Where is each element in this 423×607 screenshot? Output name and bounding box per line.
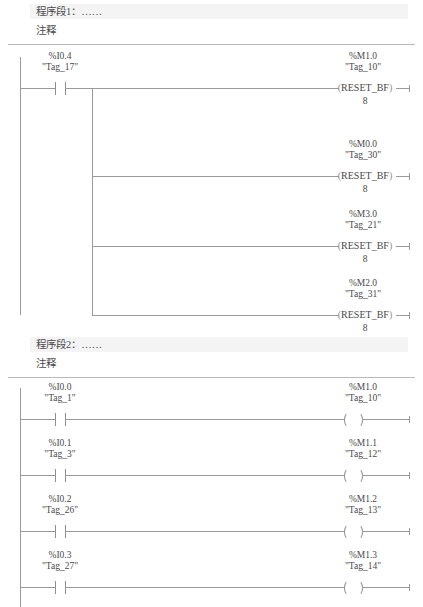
rung-1-wire-coil-out [396, 88, 410, 89]
network-1-title[interactable]: 程序段1：…… [36, 4, 102, 19]
rung-4-end-tick [409, 584, 410, 591]
rung-3-coil-address: %M1.2 [330, 494, 396, 505]
network-2: 程序段2：…… 注释 %I0.0 "Tag_1" %M1.0 "Tag_10" … [0, 334, 423, 607]
rung-1-coil-address: %M1.0 [330, 382, 396, 393]
network-1-divider [8, 44, 415, 45]
network-1-comment[interactable]: 注释 [36, 24, 56, 38]
rung-1-reset-bf-parameter[interactable]: 8 [334, 96, 396, 107]
rung-2-wire-coil-out [396, 176, 410, 177]
rung-3-coil-tag: "Tag_13" [330, 505, 396, 516]
rung-4-wire-coil-out [396, 315, 410, 316]
network-1: 程序段1：…… 注释 %I0.4 "Tag_17" %M1.0 "Tag_10"… [0, 0, 423, 330]
rung-1-wire-right [65, 419, 344, 420]
rung-4-wire-coil-out [363, 587, 410, 588]
rung-1-wire-coil-out [363, 419, 410, 420]
branch-bus [92, 88, 93, 315]
rung-2-wire-left [20, 475, 55, 476]
rung-3-coil-address: %M3.0 [330, 209, 396, 220]
rung-1-contact-tag: "Tag_1" [27, 393, 93, 404]
rung-3-wire-right [65, 531, 344, 532]
rung-1-end-tick [409, 85, 410, 92]
rung-1-contact-address: %I0.0 [27, 382, 93, 393]
rung-4-coil-tag: "Tag_14" [330, 561, 396, 572]
rung-2-reset-bf-coil[interactable]: (RESET_BF) [334, 169, 396, 183]
rung-4-reset-bf-label: RESET_BF [341, 309, 389, 320]
rung-2-contact-address: %I0.1 [27, 438, 93, 449]
rung-1-reset-bf-coil[interactable]: (RESET_BF) [334, 81, 396, 95]
rung-1-wire-right [92, 88, 339, 89]
rung-2-output-coil[interactable] [344, 468, 363, 482]
rung-3-output-coil[interactable] [344, 524, 363, 538]
rung-1-wire-left [20, 88, 55, 89]
rung-2-wire-coil-out [363, 475, 410, 476]
rung-1-wire-mid [65, 88, 92, 89]
rung-3-wire-coil-out [363, 531, 410, 532]
rung-2-coil-tag: "Tag_12" [330, 449, 396, 460]
lad-editor-canvas: 程序段1：…… 注释 %I0.4 "Tag_17" %M1.0 "Tag_10"… [0, 0, 423, 607]
power-rail-left [20, 57, 21, 315]
rung-1-output-coil[interactable] [344, 412, 363, 426]
rung-1-contact-tag: "Tag_17" [27, 62, 93, 73]
rung-1-contact-address: %I0.4 [27, 51, 93, 62]
rung-4-reset-bf-coil[interactable]: (RESET_BF) [334, 308, 396, 322]
power-rail-left [20, 388, 21, 607]
rung-4-output-coil[interactable] [344, 580, 363, 594]
rung-4-reset-bf-parameter[interactable]: 8 [334, 323, 396, 334]
rung-2-reset-bf-parameter[interactable]: 8 [334, 184, 396, 195]
rung-1-wire-left [20, 419, 55, 420]
rung-2-coil-address: %M1.1 [330, 438, 396, 449]
rung-3-contact-tag: "Tag_26" [27, 505, 93, 516]
rung-3-contact-address: %I0.2 [27, 494, 93, 505]
rung-4-end-tick [409, 312, 410, 319]
rung-4-coil-tag: "Tag_31" [330, 289, 396, 300]
rung-4-contact-address: %I0.3 [27, 550, 93, 561]
rung-4-contact-tag: "Tag_27" [27, 561, 93, 572]
rung-4-wire [92, 315, 339, 316]
rung-4-coil-address: %M1.3 [330, 550, 396, 561]
network-2-title[interactable]: 程序段2：…… [36, 337, 102, 352]
rung-1-end-tick [409, 416, 410, 423]
rung-3-wire [92, 246, 339, 247]
rung-3-reset-bf-label: RESET_BF [341, 240, 389, 251]
network-2-comment[interactable]: 注释 [36, 357, 56, 371]
rung-1-reset-bf-label: RESET_BF [341, 82, 389, 93]
network-2-divider [8, 377, 415, 378]
rung-3-end-tick [409, 528, 410, 535]
rung-3-end-tick [409, 243, 410, 250]
rung-2-end-tick [409, 173, 410, 180]
rung-2-wire [92, 176, 339, 177]
rung-3-wire-left [20, 531, 55, 532]
rung-3-reset-bf-parameter[interactable]: 8 [334, 254, 396, 265]
rung-2-coil-address: %M0.0 [330, 139, 396, 150]
rung-1-coil-tag: "Tag_10" [330, 393, 396, 404]
rung-4-wire-left [20, 587, 55, 588]
rung-3-coil-tag: "Tag_21" [330, 220, 396, 231]
rung-2-reset-bf-label: RESET_BF [341, 170, 389, 181]
rung-1-coil-tag: "Tag_10" [330, 62, 396, 73]
rung-2-wire-right [65, 475, 344, 476]
rung-4-coil-address: %M2.0 [330, 278, 396, 289]
rung-3-reset-bf-coil[interactable]: (RESET_BF) [334, 239, 396, 253]
rung-2-end-tick [409, 472, 410, 479]
rung-2-coil-tag: "Tag_30" [330, 150, 396, 161]
rung-4-wire-right [65, 587, 344, 588]
rung-3-wire-coil-out [396, 246, 410, 247]
rung-2-contact-tag: "Tag_3" [27, 449, 93, 460]
rung-1-coil-address: %M1.0 [330, 51, 396, 62]
